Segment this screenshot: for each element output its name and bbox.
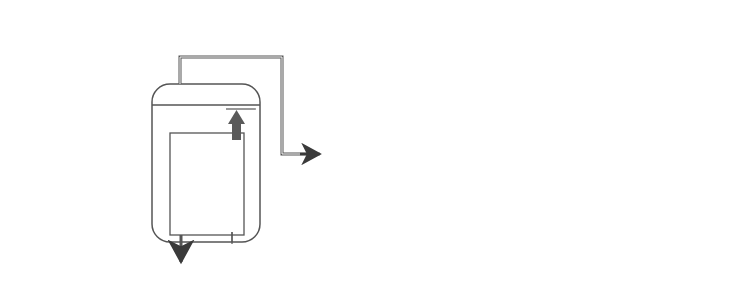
effect-1-vapor-rise <box>232 122 241 140</box>
effect-1 <box>152 57 320 262</box>
evaporator-diagram <box>0 0 755 293</box>
effect-1-heating-tube <box>170 133 244 235</box>
up-arrow-icon <box>228 110 245 124</box>
